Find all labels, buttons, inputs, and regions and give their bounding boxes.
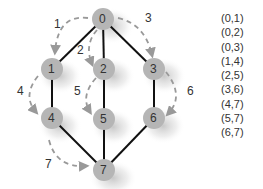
graph-edges xyxy=(52,19,154,170)
node-4: 4 xyxy=(41,107,63,129)
node-7: 7 xyxy=(93,159,115,181)
edge-list-item: (5,7) xyxy=(221,111,244,125)
graph-diagram: 1 2 3 4 5 6 7 0 1 2 3 4 5 6 7 xyxy=(0,0,215,189)
arrow-4 xyxy=(29,76,38,112)
svg-text:7: 7 xyxy=(100,163,107,177)
arrow-label-5: 5 xyxy=(74,84,81,98)
edge-list-item: (4,7) xyxy=(221,97,244,111)
arrow-7 xyxy=(49,140,86,166)
node-5: 5 xyxy=(93,108,115,130)
edge-list-item: (0,1) xyxy=(221,11,244,25)
edge-list: (0,1) (0,2) (0,3) (1,4) (2,5) (3,6) (4,7… xyxy=(221,11,244,140)
edge-list-item: (1,4) xyxy=(221,54,244,68)
node-2: 2 xyxy=(93,58,115,80)
svg-text:1: 1 xyxy=(48,62,55,76)
svg-text:3: 3 xyxy=(150,62,157,76)
edge-list-item: (0,2) xyxy=(221,25,244,39)
edge-list-item: (0,3) xyxy=(221,40,244,54)
node-3: 3 xyxy=(143,58,165,80)
edge-list-item: (6,7) xyxy=(221,125,244,139)
node-6: 6 xyxy=(143,107,165,129)
node-0: 0 xyxy=(92,8,114,30)
node-1: 1 xyxy=(41,58,63,80)
arrow-label-3: 3 xyxy=(145,11,152,25)
arrow-label-2: 2 xyxy=(77,43,84,57)
arrow-label-4: 4 xyxy=(17,84,24,98)
svg-text:4: 4 xyxy=(48,111,55,125)
svg-text:5: 5 xyxy=(100,112,107,126)
arrow-label-6: 6 xyxy=(187,84,194,98)
svg-text:0: 0 xyxy=(99,12,106,26)
svg-text:2: 2 xyxy=(100,62,107,76)
arrow-label-1: 1 xyxy=(54,17,61,31)
arrow-label-7: 7 xyxy=(45,157,52,171)
svg-text:6: 6 xyxy=(150,111,157,125)
edge-list-item: (3,6) xyxy=(221,82,244,96)
edge-list-item: (2,5) xyxy=(221,68,244,82)
